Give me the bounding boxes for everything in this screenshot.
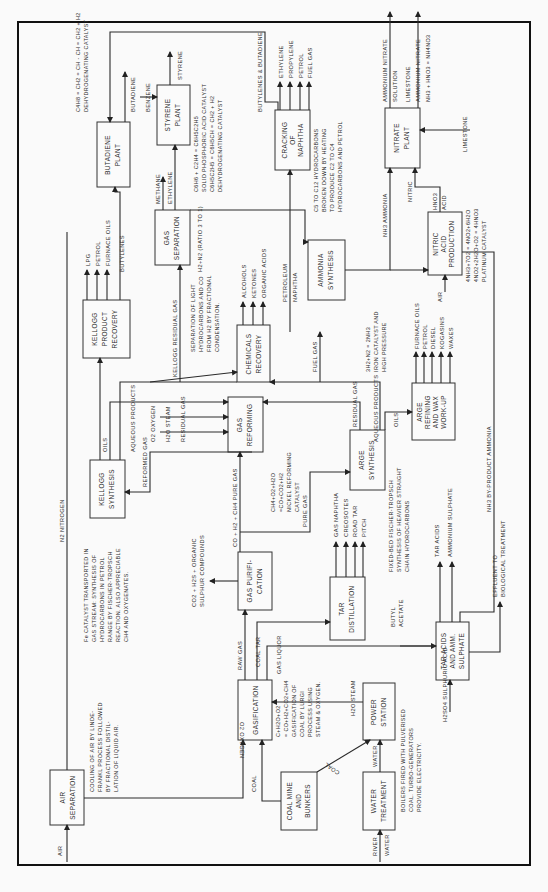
svg-text:FURNACE OILS: FURNACE OILS [414,303,420,349]
svg-text:O2 OXYGEN: O2 OXYGEN [150,405,156,442]
svg-text:AQUEOUS PRODUCTS: AQUEOUS PRODUCTS [373,375,379,442]
svg-text:CO2 + H2S + ORGANIC: CO2 + H2S + ORGANIC [191,538,197,607]
svg-text:WATER: WATER [372,745,378,767]
svg-text:RECOVERY: RECOVERY [255,334,262,373]
svg-text:C4H8 = CH2 = CH - CH = CH2 + H: C4H8 = CH2 = CH - CH = CH2 + H2 [75,12,81,112]
unit-water-treatment: WATER TREATMENT [363,772,395,830]
unit-gas-separation: GAS SEPARATION [155,210,190,265]
svg-text:WORK-UP: WORK-UP [440,395,447,429]
svg-text:ACID: ACID [441,195,447,210]
svg-text:GAS NAPHTHA: GAS NAPHTHA [333,493,339,538]
svg-text:ETHYLENE: ETHYLENE [167,171,173,204]
svg-text:ROAD TAR: ROAD TAR [352,505,358,537]
svg-text:SULPHATE: SULPHATE [458,633,465,669]
svg-text:AMMONIUM NITRATE: AMMONIUM NITRATE [415,39,421,102]
svg-text:C5 TO C12 HYDROCARBONS: C5 TO C12 HYDROCARBONS [313,129,319,213]
svg-text:METHANE: METHANE [155,174,161,204]
svg-text:C+H2O+O2: C+H2O+O2 [275,705,281,737]
svg-text:IRON CATALYST AND: IRON CATALYST AND [373,311,379,372]
svg-text:=CO+CO2+H2: =CO+CO2+H2 [278,472,284,512]
svg-text:BENZENE: BENZENE [145,83,151,112]
svg-text:PROCESS USING: PROCESS USING [307,687,313,737]
svg-text:COAL MINE: COAL MINE [286,782,293,821]
svg-text:N2 NITROGEN: N2 NITROGEN [59,499,65,542]
svg-text:COAL BY LURGI: COAL BY LURGI [299,691,305,737]
unit-gas-reforming: GAS REFORMING [228,397,263,452]
svg-text:OF: OF [289,135,296,145]
svg-text:TAR: TAR [338,602,345,616]
svg-text:RESIDUAL GAS: RESIDUAL GAS [352,381,358,427]
svg-text:HNO3: HNO3 [432,193,438,210]
svg-text:PETROL: PETROL [422,324,428,349]
svg-text:KETONES: KETONES [251,269,257,298]
unit-coal-mine: COAL MINE AND BUNKERS [281,772,317,830]
unit-cracking-naphtha: CRACKING OF NAPHTHA [275,110,310,170]
svg-text:PETROL: PETROL [298,53,304,78]
svg-text:TO PRODUCE C2 TO C4: TO PRODUCE C2 TO C4 [329,143,335,212]
svg-text:BUTYLENES: BUTYLENES [119,235,125,272]
unit-chemicals-recovery: CHEMICALS RECOVERY [237,325,270,382]
svg-text:BUTYL: BUTYL [390,607,396,627]
svg-text:NAPHTHA: NAPHTHA [297,123,304,157]
svg-text:GAS: GAS [236,418,243,433]
svg-text:TREATMENT: TREATMENT [380,780,387,822]
svg-text:AND AMM.: AND AMM. [449,634,456,669]
svg-text:RIVER: RIVER [372,837,378,856]
svg-text:HIGH PRESSURE: HIGH PRESSURE [381,322,387,372]
svg-text:COAL: COAL [251,775,257,792]
svg-text:LPG: LPG [85,254,91,266]
svg-text:PURE GAS: PURE GAS [302,495,308,527]
unit-air-separation: AIR SEPARATION [50,770,84,825]
svg-text:NH3 BY-PRODUCT AMMONIA: NH3 BY-PRODUCT AMMONIA [486,426,492,512]
svg-text:PITCH: PITCH [361,518,367,537]
unit-gas-purification: GAS PURIFI- CATION [238,552,272,610]
svg-text:NICKEL REFORMING: NICKEL REFORMING [286,452,292,512]
svg-text:ORGANIC ACIDS: ORGANIC ACIDS [261,248,267,298]
svg-text:GASIFICATION OF: GASIFICATION OF [291,684,297,737]
svg-text:C6H5C2H5 = C6H5CH = CH2 + H2: C6H5C2H5 = C6H5CH = CH2 + H2 [209,96,215,192]
svg-text:AIR: AIR [57,845,63,856]
svg-text:STYRENE: STYRENE [177,51,183,80]
svg-text:LATION OF LIQUID AIR.: LATION OF LIQUID AIR. [113,724,119,792]
svg-text:PROPYLENE: PROPYLENE [288,40,294,78]
svg-text:LIMESTONE: LIMESTONE [405,66,411,102]
unit-tar-distillation: TAR DISTILLATION [330,577,365,640]
svg-text:BIOLOGICAL TREATMENT: BIOLOGICAL TREATMENT [500,520,506,597]
svg-text:HYDROCARBONS AND CO: HYDROCARBONS AND CO [198,276,204,352]
svg-text:KELLOGG: KELLOGG [91,312,98,345]
svg-text:ARGE: ARGE [358,450,365,470]
svg-text:LIMESTONE: LIMESTONE [462,116,468,152]
svg-text:REACTION. ALSO APPRECIABLE: REACTION. ALSO APPRECIABLE [115,548,121,642]
svg-text:BUTYLENES & BUTADIENE: BUTYLENES & BUTADIENE [257,32,263,112]
svg-text:PLANT: PLANT [174,104,181,127]
svg-text:ALCOHOLS: ALCOHOLS [241,264,247,298]
svg-text:4NO2+2H2O+O2 = 4HNO3: 4NO2+2H2O+O2 = 4HNO3 [473,208,479,282]
svg-text:CHEMICALS: CHEMICALS [245,334,252,375]
svg-text:NITRIC: NITRIC [432,232,439,256]
svg-text:GAS STREAM: SYNTHESIS OF: GAS STREAM: SYNTHESIS OF [91,554,97,642]
svg-text:REFORMED GAS: REFORMED GAS [142,437,148,487]
svg-text:SEPARATION OF LIGHT: SEPARATION OF LIGHT [190,284,196,352]
svg-text:GAS PURIFI-: GAS PURIFI- [246,560,253,603]
svg-text:SYNTHESIS OF HEAVIER STRAIGHT: SYNTHESIS OF HEAVIER STRAIGHT [396,467,402,572]
svg-text:COAL TAR: COAL TAR [255,637,261,667]
svg-text:CREOSOTES: CREOSOTES [343,498,349,537]
svg-text:FRANKL PROCESS FOLLOWED: FRANKL PROCESS FOLLOWED [97,702,103,792]
svg-text:BUTADIENE: BUTADIENE [130,77,136,112]
svg-text:CRACKING: CRACKING [281,122,288,159]
svg-text:BROKEN DOWN BY HEATING: BROKEN DOWN BY HEATING [321,128,327,212]
svg-text:POWER: POWER [370,699,377,725]
svg-text:SOLID PHOSPHORIC ACID CATALYST: SOLID PHOSPHORIC ACID CATALYST [201,84,207,192]
svg-text:PETROL: PETROL [95,241,101,266]
svg-text:ACID: ACID [440,236,447,253]
svg-text:CH4+O2+H2O: CH4+O2+H2O [270,473,276,512]
svg-text:BY FRACTIONAL DISTIL-: BY FRACTIONAL DISTIL- [105,721,111,792]
svg-text:ARGE: ARGE [416,402,423,422]
svg-text:4NH3+7O2 = 4NO2+6H2O: 4NH3+7O2 = 4NO2+6H2O [465,209,471,282]
unit-arge-synthesis: ARGE SYNTHESIS [350,430,385,490]
unit-ammonia-synthesis: AMMONIA SYNTHESIS [308,240,345,300]
svg-text:KELLOGG: KELLOGG [98,472,105,505]
svg-text:Fe CATALYST TRANSPORTED IN: Fe CATALYST TRANSPORTED IN [83,548,89,642]
svg-text:COOLING OF AIR BY LINDE-: COOLING OF AIR BY LINDE- [89,711,95,792]
svg-text:SULPHUR COMPOUNDS: SULPHUR COMPOUNDS [199,535,205,607]
